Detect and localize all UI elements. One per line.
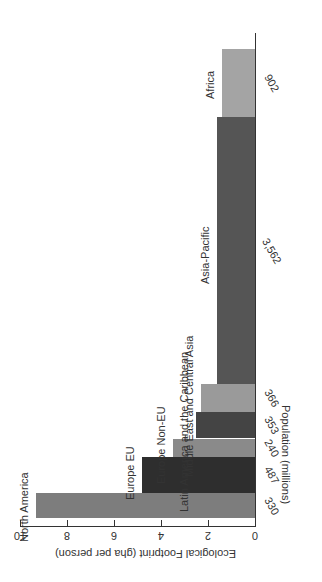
ecological-footprint-chart: North AmericaEurope EUEurope Non-EULatin… [0,0,322,582]
y-tick-label: 0 [252,530,258,542]
population-label: 366 [262,387,282,409]
y-tick [20,520,21,526]
bar [217,117,255,385]
y-tick-label: 8 [64,530,70,542]
x-axis-line [20,526,255,527]
category-label: Middle East and Central Asia [183,335,195,476]
category-label: Africa [204,71,216,99]
y-tick-label: 6 [111,530,117,542]
y-tick [208,520,209,526]
x-axis-title: Population (millions) [280,405,292,504]
bar [36,493,255,518]
population-label: 240 [262,437,282,459]
baseline [255,33,256,527]
category-label: Europe Non-EU [155,406,167,484]
y-tick [255,520,256,526]
bar [222,49,255,117]
bar [201,384,255,412]
population-label: 3,562 [260,236,284,266]
population-label: 330 [262,495,282,517]
category-label: Asia-Pacific [199,227,211,284]
population-label: 487 [262,464,282,486]
y-tick-label: 2 [205,530,211,542]
category-label: Europe EU [124,446,136,500]
bar [196,412,255,439]
population-label: 353 [262,414,282,436]
y-tick-label: 4 [158,530,164,542]
y-tick [67,520,68,526]
y-axis-title: Ecological Footprint (gha per person) [55,548,236,560]
y-tick [161,520,162,526]
y-tick [114,520,115,526]
population-label: 902 [262,72,282,94]
y-tick-label: 10 [14,530,26,542]
